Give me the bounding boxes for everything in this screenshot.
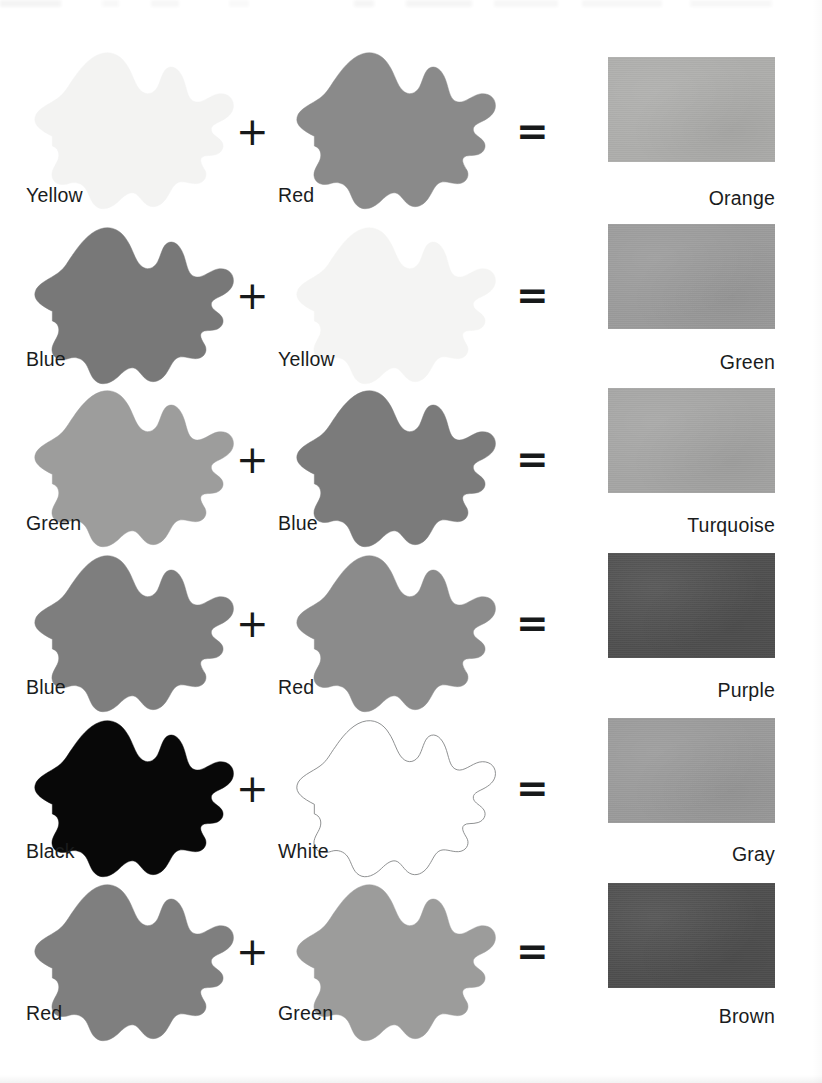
equals-operator-icon: = xyxy=(516,276,549,315)
result-label: Turquoise xyxy=(687,516,775,536)
equals-operator-icon: = xyxy=(516,440,549,479)
ingredient-b-label: Yellow xyxy=(278,350,335,370)
ingredient-b-label: Red xyxy=(278,186,314,206)
ingredient-b-label: Green xyxy=(278,1004,333,1024)
equals-operator-icon: = xyxy=(516,112,549,151)
ingredient-b-label: Red xyxy=(278,678,314,698)
ingredient-a-label: Blue xyxy=(26,350,66,370)
page-edge-shading-right xyxy=(812,0,822,1083)
page-edge-shading-bottom xyxy=(0,1075,822,1083)
plus-operator-icon: + xyxy=(236,932,269,971)
ingredient-b-label: White xyxy=(278,842,329,862)
equals-operator-icon: = xyxy=(516,932,549,971)
plus-operator-icon: + xyxy=(236,112,269,151)
ingredient-a-label: Black xyxy=(26,842,75,862)
plus-operator-icon: + xyxy=(236,604,269,643)
scan-artifact-top xyxy=(0,0,822,7)
equals-operator-icon: = xyxy=(516,604,549,643)
result-label: Orange xyxy=(709,189,775,209)
result-label: Brown xyxy=(719,1007,775,1027)
ingredient-b-blob xyxy=(276,876,506,1051)
ingredient-a-label: Green xyxy=(26,514,81,534)
plus-operator-icon: + xyxy=(236,276,269,315)
plus-operator-icon: + xyxy=(236,440,269,479)
result-label: Gray xyxy=(732,845,775,865)
result-label: Purple xyxy=(717,681,775,701)
result-swatch xyxy=(608,553,775,658)
result-label: Green xyxy=(720,353,775,373)
ingredient-a-label: Blue xyxy=(26,678,66,698)
equals-operator-icon: = xyxy=(516,769,549,808)
result-swatch xyxy=(608,57,775,162)
ingredient-a-blob xyxy=(14,876,244,1051)
ingredient-b-label: Blue xyxy=(278,514,318,534)
ingredient-a-label: Red xyxy=(26,1004,62,1024)
result-swatch xyxy=(608,718,775,823)
result-swatch xyxy=(608,224,775,329)
plus-operator-icon: + xyxy=(236,769,269,808)
result-swatch xyxy=(608,388,775,493)
result-swatch xyxy=(608,883,775,988)
ingredient-a-label: Yellow xyxy=(26,186,83,206)
